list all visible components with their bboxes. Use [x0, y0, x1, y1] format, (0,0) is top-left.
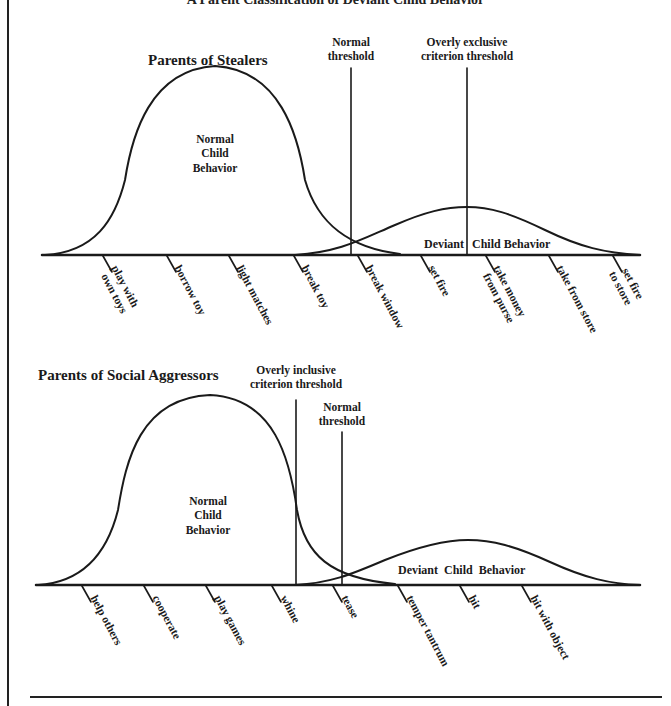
label-line: threshold [302, 414, 382, 428]
label-line: Behavior [168, 523, 248, 537]
stealers-deviant-label-word1: Deviant [422, 237, 464, 252]
aggressors-normal-curve-label: Normal Child Behavior [168, 494, 248, 537]
stealers-exclusive-threshold-label: Overly exclusive criterion threshold [407, 35, 527, 64]
stealers-normal-threshold-label: Normal threshold [311, 35, 391, 64]
stealers-deviant-label-word2: Child Behavior [472, 237, 550, 252]
label-line: criterion threshold [407, 49, 527, 63]
aggressors-deviant-label: Deviant Child Behavior [398, 563, 525, 578]
stealers-panel-title: Parents of Stealers [148, 52, 268, 69]
label-line: Normal [168, 494, 248, 508]
stealers-normal-curve-label: Normal Child Behavior [175, 132, 255, 175]
aggressors-panel-title: Parents of Social Aggressors [38, 367, 219, 384]
label-line: Child [168, 508, 248, 522]
label-line: Normal [302, 400, 382, 414]
label-line: criterion threshold [236, 377, 356, 391]
label-line: threshold [311, 49, 391, 63]
label-line: Child [175, 146, 255, 160]
label-line: Normal [175, 132, 255, 146]
aggressors-normal-threshold-label: Normal threshold [302, 400, 382, 429]
label-line: Normal [311, 35, 391, 49]
aggressors-inclusive-threshold-label: Overly inclusive criterion threshold [236, 363, 356, 392]
bottom-divider [30, 696, 662, 698]
label-line: Behavior [175, 161, 255, 175]
label-line: Overly inclusive [236, 363, 356, 377]
label-line: Overly exclusive [407, 35, 527, 49]
